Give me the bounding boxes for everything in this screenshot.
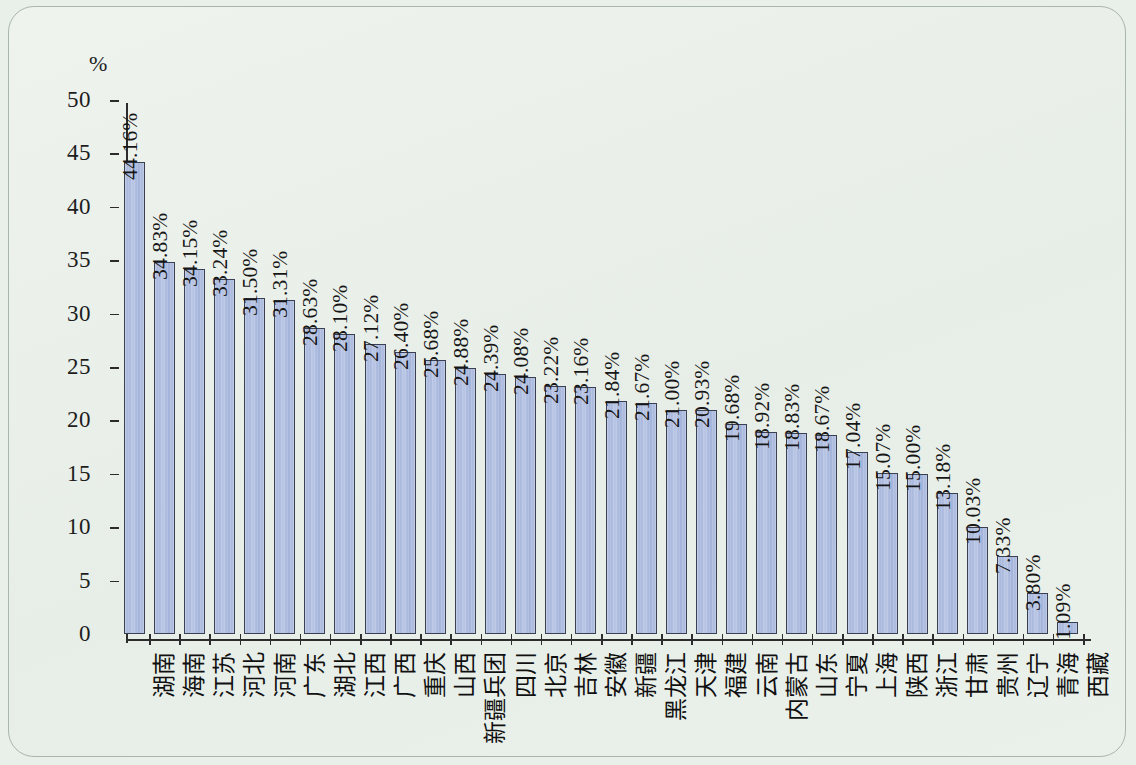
y-axis-tick-label: 15 xyxy=(47,461,91,487)
x-axis-category-label: 云南 xyxy=(748,652,782,698)
bar-value-label: 24.08% xyxy=(509,327,534,395)
bar xyxy=(636,403,657,634)
x-axis-category-label: 湖北 xyxy=(326,652,360,698)
y-axis-tick-mark xyxy=(110,100,119,102)
y-axis-tick-mark xyxy=(110,474,119,476)
bar-value-label: 21.84% xyxy=(600,351,625,419)
bar xyxy=(756,432,777,634)
y-axis-tick-label: 40 xyxy=(47,194,91,220)
y-axis-tick-label: 0 xyxy=(47,621,91,647)
y-axis-tick-label: 25 xyxy=(47,354,91,380)
bar-value-label: 13.18% xyxy=(931,444,956,512)
x-axis-category-label: 宁夏 xyxy=(838,652,872,698)
x-axis-category-label: 河南 xyxy=(266,652,300,698)
x-axis-tick-mark xyxy=(722,634,724,645)
bar xyxy=(244,298,265,634)
y-axis-tick-label: 20 xyxy=(47,407,91,433)
x-axis-category-label: 甘肃 xyxy=(958,652,992,698)
bar-value-label: 18.92% xyxy=(750,382,775,450)
bar-value-label: 23.16% xyxy=(569,337,594,405)
x-axis-category-label: 北京 xyxy=(537,652,571,698)
bar xyxy=(124,162,145,634)
x-axis-category-label: 辽宁 xyxy=(1019,652,1053,698)
x-axis-tick-mark xyxy=(209,634,211,645)
bar-value-label: 27.12% xyxy=(359,295,384,363)
x-axis-category-label: 广东 xyxy=(296,652,330,698)
bar-value-label: 25.68% xyxy=(419,310,444,378)
bar xyxy=(425,360,446,634)
bar-value-label: 15.07% xyxy=(871,424,896,492)
bar xyxy=(304,328,325,634)
x-axis-tick-mark xyxy=(691,634,693,645)
x-axis-tick-mark xyxy=(330,634,332,645)
x-axis-tick-mark xyxy=(902,634,904,645)
bar xyxy=(184,269,205,634)
x-axis-tick-mark xyxy=(420,634,422,645)
bar xyxy=(606,401,627,634)
x-axis-tick-mark xyxy=(149,634,151,645)
y-axis-tick-label: 50 xyxy=(47,87,91,113)
bar-value-label: 33.24% xyxy=(208,229,233,297)
x-axis-category-label: 广西 xyxy=(386,652,420,698)
bar-value-label: 24.88% xyxy=(449,319,474,387)
x-axis-tick-mark xyxy=(842,634,844,645)
x-axis-tick-mark xyxy=(812,634,814,645)
bar xyxy=(154,262,175,634)
bar xyxy=(907,474,928,634)
bar xyxy=(395,352,416,634)
bar xyxy=(937,493,958,634)
x-axis-category-label: 新疆兵团 xyxy=(476,652,510,744)
x-axis-tick-mark xyxy=(450,634,452,645)
chart-page: % 05101520253035404550 44.16%34.83%34.15… xyxy=(0,0,1136,765)
bar xyxy=(696,410,717,634)
x-axis-category-label: 江西 xyxy=(356,652,390,698)
y-axis-tick-mark xyxy=(110,527,119,529)
y-axis-unit-label: % xyxy=(89,51,107,77)
bar xyxy=(786,433,807,634)
x-axis-tick-mark xyxy=(752,634,754,645)
bar xyxy=(666,410,687,634)
x-axis-category-label: 贵州 xyxy=(989,652,1023,698)
y-axis-tick-mark xyxy=(110,260,119,262)
y-axis-tick-mark xyxy=(110,420,119,422)
bar xyxy=(575,387,596,634)
bar xyxy=(485,374,506,634)
x-axis-tick-mark xyxy=(1083,634,1085,645)
bar xyxy=(515,377,536,634)
x-axis-category-label: 安徽 xyxy=(597,652,631,698)
x-axis-category-label: 西藏 xyxy=(1079,652,1113,698)
x-axis-tick-mark xyxy=(571,634,573,645)
x-axis-tick-mark xyxy=(963,634,965,645)
x-axis-tick-mark xyxy=(661,634,663,645)
bar xyxy=(877,473,898,634)
x-axis-category-label: 吉林 xyxy=(567,652,601,698)
x-axis-category-label: 湖南 xyxy=(145,652,179,698)
bar-value-label: 44.16% xyxy=(118,113,143,181)
x-axis-category-label: 青海 xyxy=(1049,652,1083,698)
x-axis-category-label: 上海 xyxy=(868,652,902,698)
bar-value-label: 26.40% xyxy=(389,303,414,371)
x-axis-category-label: 山东 xyxy=(808,652,842,698)
x-axis-tick-mark xyxy=(993,634,995,645)
bar-value-label: 1.09% xyxy=(1051,584,1076,641)
bar xyxy=(334,334,355,634)
x-axis-tick-mark xyxy=(270,634,272,645)
bar-value-label: 31.50% xyxy=(238,248,263,316)
bar-value-label: 19.68% xyxy=(720,374,745,442)
x-axis-category-label: 四川 xyxy=(507,652,541,698)
bar-value-label: 21.00% xyxy=(660,360,685,428)
x-axis-tick-mark xyxy=(872,634,874,645)
x-axis-tick-mark xyxy=(300,634,302,645)
bar xyxy=(455,368,476,634)
bar-value-label: 34.15% xyxy=(178,220,203,288)
x-axis-category-label: 福建 xyxy=(717,652,751,698)
bar xyxy=(365,344,386,634)
x-axis-tick-mark xyxy=(932,634,934,645)
bar-value-label: 34.83% xyxy=(148,213,173,281)
x-axis-category-label: 新疆 xyxy=(627,652,661,698)
y-axis-tick-mark xyxy=(110,314,119,316)
chart-frame: % 05101520253035404550 44.16%34.83%34.15… xyxy=(8,6,1126,757)
y-axis-tick-label: 5 xyxy=(47,568,91,594)
x-axis-tick-mark xyxy=(631,634,633,645)
bar-value-label: 18.67% xyxy=(810,385,835,453)
